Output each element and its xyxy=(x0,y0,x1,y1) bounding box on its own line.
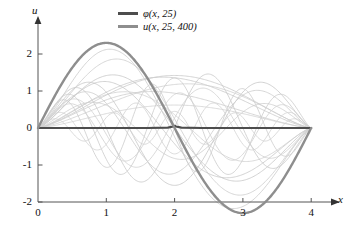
x-tick-4: 4 xyxy=(301,206,321,218)
curve-harmonic-sum-12 xyxy=(38,90,311,174)
legend-item-2[interactable]: u(x, 25, 400) xyxy=(118,20,197,33)
legend-item-1[interactable]: φ(x, 25) xyxy=(118,7,197,20)
x-tick-1: 1 xyxy=(96,206,116,218)
x-tick-3: 3 xyxy=(233,206,253,218)
legend-swatch-1 xyxy=(118,12,138,15)
legend-swatch-2 xyxy=(118,25,138,28)
y-tick-2: 2 xyxy=(10,47,32,59)
x-axis-label: x xyxy=(338,193,343,205)
y-tick-1: 1 xyxy=(10,84,32,96)
y-tick-neg1: -1 xyxy=(10,158,32,170)
main-curve-layer xyxy=(38,43,311,213)
x-tick-0: 0 xyxy=(28,206,48,218)
chart-legend: φ(x, 25)u(x, 25, 400) xyxy=(118,7,197,33)
legend-label-1: φ(x, 25) xyxy=(143,8,176,19)
chart-plot-area xyxy=(0,0,353,235)
y-tick-neg2: -2 xyxy=(10,195,32,207)
curve-harmonic-sum-3 xyxy=(38,84,311,128)
y-tick-0: 0 xyxy=(10,121,32,133)
x-tick-2: 2 xyxy=(165,206,185,218)
legend-label-2: u(x, 25, 400) xyxy=(143,21,197,32)
chart-figure: u x 01234 210-1-2 φ(x, 25)u(x, 25, 400) xyxy=(0,0,353,235)
curve-harmonic-sum-5 xyxy=(38,105,311,128)
y-axis-label: u xyxy=(32,4,38,16)
curve-harmonic-sum-11 xyxy=(38,82,311,185)
